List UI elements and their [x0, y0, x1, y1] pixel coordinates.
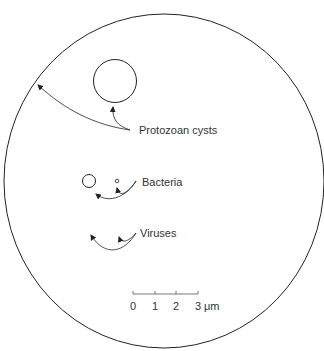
bacteria-small-circle	[115, 179, 119, 183]
scale-tick-3: 3	[195, 300, 201, 312]
label-bacteria: Bacteria	[142, 176, 183, 188]
protozoan-arrow-to-field	[38, 85, 130, 130]
virus-arrow-left	[91, 233, 136, 250]
label-protozoan-cysts: Protozoan cysts	[139, 124, 218, 136]
label-viruses: Viruses	[140, 227, 177, 239]
bacteria-arrow-large	[96, 181, 136, 199]
bacteria-large-circle	[83, 175, 96, 188]
scale-unit: μm	[204, 300, 220, 312]
scale-tick-0: 0	[130, 300, 136, 312]
scale-bar: 0 1 2 3 μm	[130, 291, 220, 312]
scale-tick-2: 2	[173, 300, 179, 312]
protozoan-cyst-circle	[94, 60, 137, 103]
bacteria-arrow-small	[117, 181, 136, 194]
protozoan-arrow-to-cyst	[113, 107, 130, 130]
microorganism-size-diagram: Protozoan cysts Bacteria Viruses 0 1 2 3…	[0, 0, 324, 351]
scale-tick-1: 1	[152, 300, 158, 312]
